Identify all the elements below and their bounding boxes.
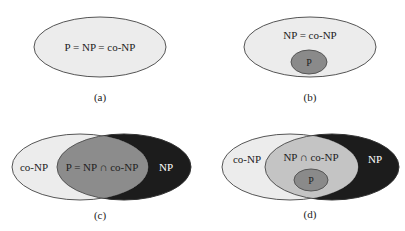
panel-d-left-label: co-NP (233, 153, 261, 165)
panel-d-caption: (d) (304, 208, 317, 221)
panel-c-left-label: co-NP (20, 161, 48, 173)
panel-c: co-NP P = NP ∩ co-NP NP (c) (12, 134, 191, 222)
panel-b: NP = co-NP P (b) (244, 17, 376, 104)
panel-a: P = NP = co-NP (a) (34, 17, 166, 104)
panel-c-right-label: NP (159, 161, 173, 173)
panel-a-caption: (a) (94, 91, 107, 104)
panel-c-caption: (c) (94, 209, 107, 222)
complexity-classes-figure: P = NP = co-NP (a) NP = co-NP P (b) co-N… (0, 0, 405, 231)
panel-d: co-NP NP ∩ co-NP P NP (d) (222, 134, 399, 221)
panel-b-inner-label: P (306, 57, 312, 68)
panel-c-middle-label: P = NP ∩ co-NP (66, 161, 139, 173)
panel-d-right-label: NP (368, 153, 382, 165)
panel-d-middle-label: NP ∩ co-NP (283, 151, 338, 163)
panel-b-outer-label: NP = co-NP (283, 29, 336, 41)
panel-a-label: P = NP = co-NP (65, 41, 136, 53)
panel-b-caption: (b) (304, 91, 317, 104)
panel-d-inner-label: P (308, 175, 314, 186)
